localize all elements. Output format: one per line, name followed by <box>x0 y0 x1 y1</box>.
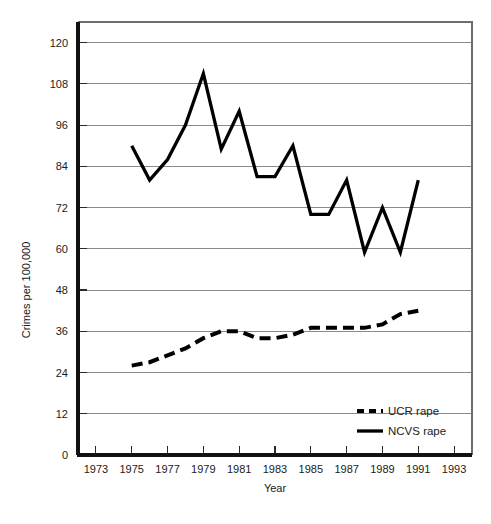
legend-label: UCR rape <box>388 405 439 417</box>
x-tick-label: 1975 <box>119 463 143 475</box>
y-tick-label: 108 <box>50 78 68 90</box>
x-tick-label: 1991 <box>406 463 430 475</box>
y-tick-label: 0 <box>62 449 68 461</box>
y-tick-label: 48 <box>56 284 68 296</box>
y-tick-label: 12 <box>56 408 68 420</box>
chart-figure: 01224364860728496108120 1973197519771979… <box>0 0 491 524</box>
x-tick-label: 1977 <box>155 463 179 475</box>
x-tick-label: 1985 <box>299 463 323 475</box>
series-line-ucr-rape <box>132 311 419 366</box>
gridlines <box>78 43 472 414</box>
y-tick-label: 36 <box>56 325 68 337</box>
x-tick-label: 1983 <box>263 463 287 475</box>
line-chart: 01224364860728496108120 1973197519771979… <box>0 0 491 524</box>
x-tick-label: 1973 <box>84 463 108 475</box>
x-tick-label: 1981 <box>227 463 251 475</box>
axis-spines <box>77 22 472 455</box>
x-tick-label: 1989 <box>370 463 394 475</box>
y-tick-label: 72 <box>56 202 68 214</box>
y-tick-label: 96 <box>56 119 68 131</box>
y-axis-title: Crimes per 100,000 <box>20 242 32 339</box>
series-line-ncvs-rape <box>132 74 419 253</box>
x-tick-label: 1993 <box>442 463 466 475</box>
legend-label: NCVS rape <box>388 425 446 437</box>
plot-border <box>78 22 472 455</box>
y-tick-label: 60 <box>56 243 68 255</box>
chart-legend: UCR rapeNCVS rape <box>357 405 446 437</box>
y-tick-label: 120 <box>50 37 68 49</box>
x-tick-labels: 1973197519771979198119831985198719891991… <box>84 463 467 475</box>
plot-frame <box>78 22 472 455</box>
x-axis-title: Year <box>264 482 287 494</box>
x-tick-label: 1979 <box>191 463 215 475</box>
y-tick-label: 84 <box>56 160 68 172</box>
y-tick-label: 24 <box>56 367 68 379</box>
x-tick-label: 1987 <box>334 463 358 475</box>
y-tick-labels: 01224364860728496108120 <box>50 37 68 461</box>
data-series <box>132 74 419 366</box>
